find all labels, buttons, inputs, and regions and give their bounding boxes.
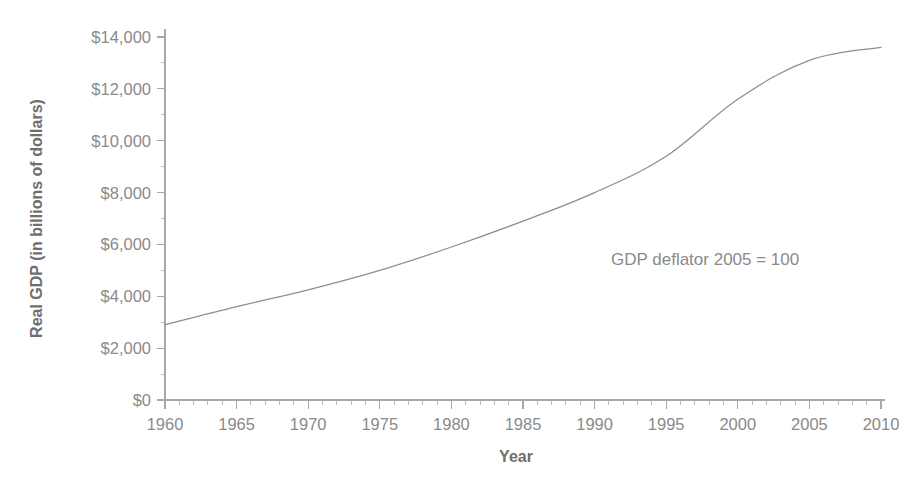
data-series-line: [165, 47, 881, 324]
chart-annotations: GDP deflator 2005 = 100: [611, 250, 799, 269]
x-tick-label: 1995: [648, 415, 685, 433]
x-tick-label: 2000: [719, 415, 756, 433]
x-tick-label: 1960: [147, 415, 184, 433]
y-axis-minor-ticks: [161, 63, 165, 374]
y-tick-label: $2,000: [101, 339, 151, 357]
y-axis-title: Real GDP (in billions of dollars): [28, 99, 45, 338]
y-tick-label: $0: [133, 391, 151, 409]
y-tick-label: $12,000: [91, 80, 151, 98]
y-tick-label: $10,000: [91, 132, 151, 150]
annotation-label: GDP deflator 2005 = 100: [611, 250, 799, 269]
y-tick-label: $8,000: [101, 184, 151, 202]
x-tick-label: 1980: [433, 415, 470, 433]
real-gdp-line-chart: $0$2,000$4,000$6,000$8,000$10,000$12,000…: [0, 0, 914, 496]
x-tick-label: 1975: [361, 415, 398, 433]
x-tick-label: 1990: [576, 415, 613, 433]
x-tick-label: 1985: [505, 415, 542, 433]
x-axis-title: Year: [499, 448, 533, 465]
plot-area: $0$2,000$4,000$6,000$8,000$10,000$12,000…: [28, 28, 899, 465]
x-axis-major-ticks: [165, 400, 881, 409]
chart-container: $0$2,000$4,000$6,000$8,000$10,000$12,000…: [0, 0, 914, 496]
x-tick-label: 2005: [791, 415, 828, 433]
y-tick-label: $14,000: [91, 28, 151, 46]
y-tick-label: $6,000: [101, 235, 151, 253]
y-tick-label: $4,000: [101, 287, 151, 305]
x-tick-label: 2010: [863, 415, 900, 433]
x-tick-label: 1970: [290, 415, 327, 433]
x-tick-label: 1965: [218, 415, 255, 433]
x-axis-tick-labels: 1960196519701975198019851990199520002005…: [147, 415, 900, 433]
y-axis-tick-labels: $0$2,000$4,000$6,000$8,000$10,000$12,000…: [91, 28, 151, 409]
